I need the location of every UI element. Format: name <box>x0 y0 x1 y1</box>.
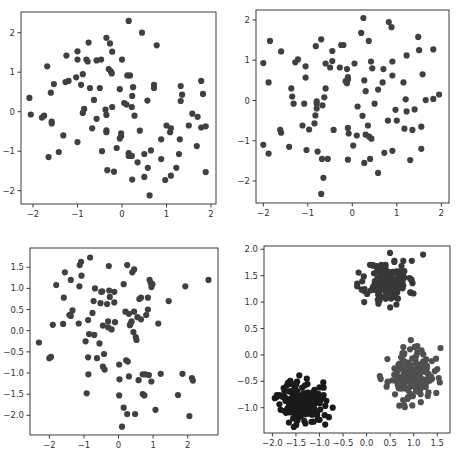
data-point <box>303 63 309 69</box>
y-tick-label: 1 <box>245 55 250 65</box>
data-point <box>176 151 182 157</box>
data-point <box>74 57 80 63</box>
data-point <box>44 63 50 69</box>
series-points <box>36 254 212 429</box>
data-point <box>145 307 151 313</box>
data-point <box>378 282 384 288</box>
y-tick-label: −1.0 <box>237 403 258 413</box>
y-tick-label: −0.5 <box>237 376 258 386</box>
data-point <box>129 104 135 110</box>
data-point <box>315 149 321 155</box>
data-point <box>68 277 74 283</box>
data-point <box>292 388 298 394</box>
data-point <box>301 101 307 107</box>
data-point <box>266 151 272 157</box>
x-tick-label: 1 <box>394 208 399 218</box>
data-point <box>299 122 305 128</box>
data-point <box>400 258 406 264</box>
y-tick-label: −1.5 <box>3 389 24 399</box>
data-point <box>424 379 430 385</box>
data-point <box>351 60 357 66</box>
data-point <box>158 136 164 142</box>
data-point <box>286 419 292 425</box>
y-tick-label: 0 <box>10 107 15 117</box>
data-point <box>329 58 335 64</box>
data-point <box>49 120 55 126</box>
data-point <box>361 77 367 83</box>
data-point <box>203 169 209 175</box>
data-point <box>322 403 328 409</box>
y-tick-label: 1.0 <box>10 283 24 293</box>
y-tick-label: 0.0 <box>244 350 258 360</box>
data-point <box>158 371 164 377</box>
y-tick-label: −0.5 <box>3 347 24 357</box>
x-tick-label: −1.0 <box>309 438 330 448</box>
data-point <box>190 378 196 384</box>
data-point <box>76 320 82 326</box>
x-tick-label: 2 <box>439 208 444 218</box>
x-tick-label: −1.5 <box>286 438 307 448</box>
data-point <box>381 150 387 156</box>
data-point <box>387 272 393 278</box>
y-tick-label: 1.5 <box>244 271 258 281</box>
y-tick-label: −2 <box>237 176 250 186</box>
series-points <box>260 15 442 197</box>
data-point <box>130 84 136 90</box>
data-point <box>99 148 105 154</box>
data-point <box>368 58 374 64</box>
data-point <box>387 304 393 310</box>
data-point <box>94 116 100 122</box>
data-point <box>78 273 84 279</box>
data-point <box>89 125 95 131</box>
data-point <box>116 392 122 398</box>
data-point <box>94 355 100 361</box>
data-point <box>136 377 142 383</box>
data-point <box>400 79 406 85</box>
data-point <box>132 411 138 417</box>
data-point <box>99 288 105 294</box>
data-point <box>205 277 211 283</box>
data-point <box>385 118 391 124</box>
data-point <box>91 332 97 338</box>
data-point <box>26 95 32 101</box>
data-point <box>415 379 421 385</box>
data-point <box>266 79 272 85</box>
y-axis: −1.0−0.50.00.51.01.52.0 <box>237 244 264 412</box>
data-point <box>290 399 296 405</box>
scatter-points <box>26 18 208 199</box>
x-tick-label: −2.0 <box>262 438 283 448</box>
data-point <box>111 299 117 305</box>
x-tick-label: −1 <box>71 209 84 219</box>
data-point <box>175 392 181 398</box>
data-point <box>354 283 360 289</box>
data-point <box>287 379 293 385</box>
data-point <box>102 107 108 113</box>
data-point <box>104 301 110 307</box>
data-point <box>179 92 185 98</box>
y-axis: −2.0−1.5−1.0−0.50.00.51.01.5 <box>3 262 30 420</box>
data-point <box>303 147 309 153</box>
data-point <box>369 65 375 71</box>
data-point <box>87 254 93 260</box>
data-point <box>63 53 69 59</box>
subplot-bottom-right: −2.0−1.5−1.0−0.50.00.51.01.5−1.0−0.50.00… <box>237 244 450 448</box>
data-point <box>143 312 149 318</box>
data-point <box>77 262 83 268</box>
data-point <box>178 98 184 104</box>
data-point <box>401 381 407 387</box>
data-point <box>385 379 391 385</box>
data-point <box>126 18 132 24</box>
data-point <box>186 122 192 128</box>
data-point <box>198 78 204 84</box>
data-point <box>279 394 285 400</box>
data-point <box>56 149 62 155</box>
data-point <box>173 165 179 171</box>
data-point <box>111 169 117 175</box>
data-point <box>350 143 356 149</box>
data-point <box>121 281 127 287</box>
data-point <box>123 102 129 108</box>
x-tick-label: −2 <box>43 440 56 450</box>
data-point <box>316 384 322 390</box>
data-point <box>126 373 132 379</box>
data-point <box>148 378 154 384</box>
